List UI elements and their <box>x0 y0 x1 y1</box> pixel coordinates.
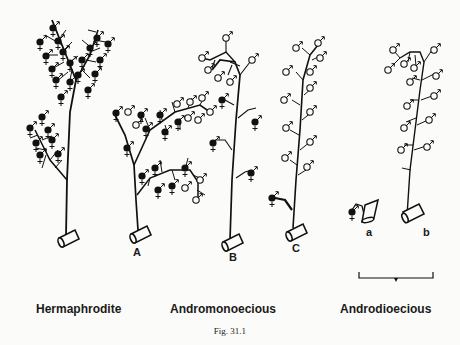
plant-androdioecious-b <box>385 44 443 224</box>
androdioecious-bracket <box>359 272 433 282</box>
label-plant-a-lower: a <box>366 226 372 238</box>
plant-hermaphrodite <box>26 20 114 248</box>
plant-androdioecious-a <box>348 200 378 224</box>
label-plant-c-upper: C <box>292 242 300 254</box>
category-andromonoecious: Andromonoecious <box>170 302 276 316</box>
plant-andromonoecious-c <box>268 37 326 242</box>
figure: A B C a b Hermaphrodite Andromonoecious … <box>0 0 460 345</box>
plant-andromonoecious-a <box>112 92 216 244</box>
figure-caption: Fig. 31.1 <box>0 326 460 336</box>
category-hermaphrodite: Hermaphrodite <box>36 302 121 316</box>
label-plant-b-upper: B <box>229 251 237 263</box>
category-androdioecious: Androdioecious <box>340 302 431 316</box>
plant-andromonoecious-b <box>199 32 261 252</box>
label-plant-a-upper: A <box>133 246 141 258</box>
plant-diagram <box>0 0 460 345</box>
label-plant-b-lower: b <box>423 226 430 238</box>
